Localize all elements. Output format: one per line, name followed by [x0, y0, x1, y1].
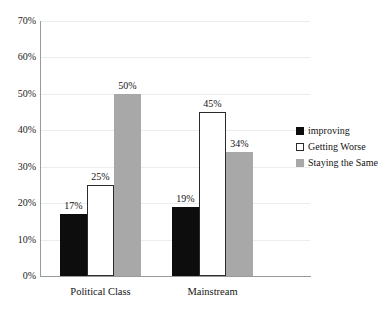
bar-value-label: 34%: [220, 138, 259, 149]
legend-swatch-improving: [296, 127, 304, 135]
y-axis-tick-label: 30%: [0, 161, 36, 172]
bar-value-label: 50%: [108, 80, 147, 91]
legend-label-getting-worse: Getting Worse: [308, 142, 366, 152]
y-axis-line: [40, 21, 41, 277]
gridline: [40, 57, 310, 58]
gridline: [40, 167, 310, 168]
bar: [172, 207, 199, 276]
y-axis-tick-label: 10%: [0, 234, 36, 245]
legend-item-improving: improving: [296, 123, 378, 139]
gridline: [40, 21, 310, 22]
y-axis-tick-label: 20%: [0, 197, 36, 208]
y-axis-tick-label: 50%: [0, 88, 36, 99]
x-axis-category-label: Political Class: [46, 286, 156, 297]
gridline: [40, 94, 310, 95]
bar: [60, 214, 87, 276]
legend-label-improving: improving: [308, 126, 350, 136]
legend-swatch-staying-the-same: [296, 159, 304, 167]
legend-item-getting-worse: Getting Worse: [296, 139, 378, 155]
bar-chart: 17%25%50%19%45%34% 0%10%20%30%40%50%60%7…: [0, 0, 388, 312]
y-axis-tick-label: 60%: [0, 51, 36, 62]
y-axis-tick-label: 0%: [0, 270, 36, 281]
legend-label-staying-the-same: Staying the Same: [308, 158, 378, 168]
chart-legend: improving Getting Worse Staying the Same: [296, 123, 378, 171]
y-axis-tick-label: 70%: [0, 15, 36, 26]
bar: [226, 152, 253, 276]
y-axis-tick-label: 40%: [0, 124, 36, 135]
bar-value-label: 45%: [193, 98, 232, 109]
legend-swatch-getting-worse: [296, 143, 304, 151]
legend-item-staying-the-same: Staying the Same: [296, 155, 378, 171]
gridline: [40, 130, 310, 131]
bar: [87, 185, 114, 276]
x-axis-category-label: Mainstream: [158, 286, 268, 297]
plot-area: 17%25%50%19%45%34%: [40, 21, 310, 276]
bar: [114, 94, 141, 276]
bar: [199, 112, 226, 276]
x-axis-line: [40, 276, 311, 277]
